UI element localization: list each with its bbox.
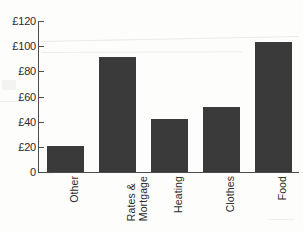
y-axis-tick-label: £100	[2, 41, 36, 52]
y-axis-tick-label: 0	[2, 167, 36, 178]
bar	[203, 107, 240, 172]
x-axis-tick-labels: OtherRates &MortgageHeatingClothesFood	[39, 174, 299, 231]
y-axis-tick-label: £20	[2, 142, 36, 153]
y-axis-tick-label: £40	[2, 117, 36, 128]
x-axis-tick-label-line: Mortgage	[138, 176, 150, 221]
x-axis-tick-label: Food	[277, 176, 288, 200]
y-axis-tick-label: £60	[2, 92, 36, 103]
y-axis-tick-mark	[39, 172, 44, 173]
y-axis-tick-mark	[39, 97, 44, 98]
y-axis-tick-label: £80	[2, 66, 36, 77]
plot-area	[39, 21, 299, 172]
bar	[151, 119, 188, 172]
x-axis-line	[38, 172, 299, 173]
x-axis-tick-label: Heating	[173, 176, 184, 213]
x-axis-tick-label: Clothes	[225, 176, 236, 212]
x-axis-tick-label: Other	[69, 176, 80, 203]
bar-chart: £120£100£80£60£40£200 OtherRates &Mortga…	[0, 0, 303, 231]
y-axis-tick-mark	[39, 147, 44, 148]
y-axis-tick-mark	[39, 21, 44, 22]
y-axis-tick-labels: £120£100£80£60£40£200	[0, 0, 36, 231]
x-axis-tick-label-line: Rates &	[126, 176, 138, 221]
y-axis-tick-label: £120	[2, 16, 36, 27]
bar	[47, 146, 84, 172]
bar	[255, 42, 292, 172]
y-axis-tick-mark	[39, 46, 44, 47]
y-axis-tick-mark	[39, 122, 44, 123]
chart-title	[30, 0, 270, 3]
x-axis-tick-label: Rates &Mortgage	[126, 176, 149, 221]
y-axis-tick-mark	[39, 71, 44, 72]
bar	[99, 57, 136, 172]
